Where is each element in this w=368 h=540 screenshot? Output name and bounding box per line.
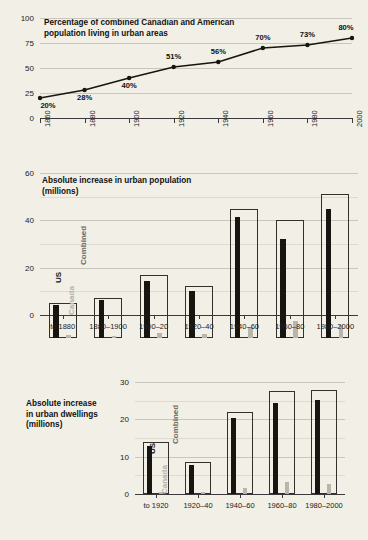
x-tick-mark — [244, 315, 245, 319]
y-axis-tick-label: 100 — [4, 14, 34, 23]
bar-us — [315, 400, 321, 494]
line-chart-panel: Percentage of combined Canadian and Amer… — [0, 0, 368, 155]
y-axis-tick-label: 60 — [4, 169, 34, 178]
y-axis-tick-label: 30 — [99, 378, 129, 387]
x-tick-mark — [198, 494, 199, 498]
x-tick-mark — [40, 118, 41, 123]
x-tick-mark — [85, 118, 86, 123]
figure-root: Percentage of combined Canadian and Amer… — [0, 0, 368, 540]
x-axis-tick-label: 1900–20 — [131, 322, 176, 331]
y-axis-tick-label: 0 — [4, 311, 34, 320]
x-axis-tick-label: 1960 — [266, 110, 275, 127]
line-point-label: 80% — [338, 23, 353, 32]
line-point-label: 40% — [121, 81, 136, 90]
x-tick-mark — [335, 315, 336, 319]
x-axis-tick-label: 1920–40 — [176, 322, 221, 331]
x-tick-mark — [154, 315, 155, 319]
line-point-label: 73% — [300, 30, 315, 39]
gridline-y-0 — [40, 118, 352, 119]
gridline-y-60 — [40, 173, 358, 174]
bar-us — [235, 217, 241, 338]
y-axis-tick-label: 10 — [99, 452, 129, 461]
line-point-label: 51% — [166, 52, 181, 61]
x-axis-tick-label: 1920–40 — [177, 501, 219, 510]
x-axis-tick-label: 1920 — [177, 110, 186, 127]
x-axis-tick-label: 1960–80 — [267, 322, 312, 331]
x-tick-mark — [282, 494, 283, 498]
legend-label-combined: Combined — [79, 226, 88, 265]
bar-group — [311, 382, 337, 494]
x-axis-tick-label: to 1880 — [40, 322, 85, 331]
line-point-label: 56% — [211, 47, 226, 56]
x-axis-tick-label: 1900 — [132, 110, 141, 127]
bar-us — [189, 291, 195, 338]
line-point-label: 20% — [40, 101, 55, 110]
population-chart-plot: 0204060to 18801880–19001900–201920–40194… — [40, 173, 358, 338]
x-tick-mark — [324, 494, 325, 498]
x-axis-tick-label: 1940–60 — [219, 501, 261, 510]
x-tick-mark — [290, 315, 291, 319]
x-tick-mark — [263, 118, 264, 123]
y-axis-tick-label: 0 — [99, 490, 129, 499]
legend-label-us: US — [148, 443, 157, 454]
y-axis-tick-label: 25 — [4, 89, 34, 98]
x-axis-tick-label: 1940–60 — [222, 322, 267, 331]
legend-label-canada: Canada — [67, 286, 76, 315]
bar-canada — [66, 335, 71, 338]
bar-us — [231, 418, 237, 494]
x-axis-tick-label: 1880 — [88, 110, 97, 127]
y-axis-tick-label: 20 — [99, 415, 129, 424]
y-axis-tick-label: 20 — [4, 263, 34, 272]
line-point-label: 70% — [255, 33, 270, 42]
y-axis-tick-label: 50 — [4, 64, 34, 73]
x-axis-tick-label: 2000 — [355, 110, 364, 127]
bar-group — [269, 382, 295, 494]
bar-group — [227, 382, 253, 494]
bar-canada — [201, 492, 205, 494]
bar-us — [99, 300, 105, 338]
bar-canada — [202, 334, 207, 339]
x-tick-mark — [156, 494, 157, 498]
bar-canada — [285, 482, 289, 494]
bar-us — [326, 209, 332, 338]
bar-us — [189, 465, 195, 494]
y-axis-tick-label: 0 — [4, 114, 34, 123]
x-tick-mark — [63, 315, 64, 319]
bar-us — [273, 403, 279, 494]
y-axis-tick-label: 75 — [4, 39, 34, 48]
x-tick-mark — [199, 315, 200, 319]
x-axis-tick-label: 1980 — [310, 110, 319, 127]
line-point-label: 28% — [77, 93, 92, 102]
x-tick-mark — [174, 118, 175, 123]
line-chart-plot: 025507510020%28%40%51%56%70%73%80%186018… — [40, 18, 352, 118]
legend-label-canada: Canada — [160, 465, 169, 494]
x-tick-mark — [218, 118, 219, 123]
x-axis-tick-label: 1980–2000 — [303, 501, 345, 510]
bar-canada — [327, 484, 331, 494]
x-axis-tick-label: 1860 — [43, 110, 52, 127]
x-tick-mark — [108, 315, 109, 319]
y-axis-tick-label: 40 — [4, 216, 34, 225]
bar-canada — [243, 488, 247, 494]
x-axis-tick-label: to 1920 — [135, 501, 177, 510]
x-axis-tick-label: 1940 — [221, 110, 230, 127]
x-axis-tick-label: 1980–2000 — [313, 322, 358, 331]
bar-canada — [112, 336, 117, 338]
legend-label-combined: Combined — [171, 405, 180, 444]
x-tick-mark — [307, 118, 308, 123]
bar-group — [185, 382, 211, 494]
x-axis-tick-label: 1880–1900 — [85, 322, 130, 331]
legend-label-us: US — [54, 272, 63, 283]
x-tick-mark — [352, 118, 353, 123]
x-tick-mark — [240, 494, 241, 498]
dwellings-chart-plot: 0102030to 19201920–401940–601960–801980–… — [135, 382, 345, 494]
population-bar-chart-panel: Absolute increase in urban population (m… — [0, 160, 368, 355]
x-axis-tick-label: 1960–80 — [261, 501, 303, 510]
bar-canada — [157, 333, 162, 338]
dwellings-bar-chart-panel: Absolute increase in urban dwellings (mi… — [0, 372, 368, 540]
x-tick-mark — [129, 118, 130, 123]
